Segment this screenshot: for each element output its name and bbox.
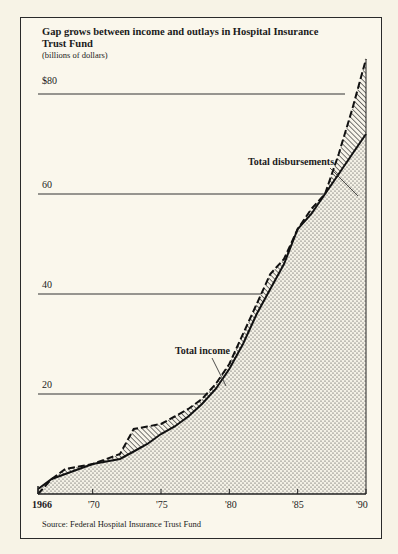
y-label-40: 40: [42, 279, 52, 290]
annotation-income: Total income: [175, 345, 230, 356]
x-label-75: '75: [156, 499, 168, 510]
y-label-60: 60: [42, 179, 52, 190]
source-note: Source: Federal Hospital Insurance Trust…: [42, 519, 201, 529]
x-label-70: '70: [88, 499, 100, 510]
annotation-disbursements: Total disbursements: [248, 156, 334, 167]
chart-plot: [0, 0, 398, 554]
x-label-80: '80: [225, 499, 237, 510]
x-label-1966: 1966: [32, 499, 52, 510]
y-label-80: $80: [42, 75, 57, 86]
x-label-85: '85: [292, 499, 304, 510]
income-area: [38, 134, 366, 494]
y-label-20: 20: [42, 379, 52, 390]
x-label-90: '90: [356, 499, 368, 510]
